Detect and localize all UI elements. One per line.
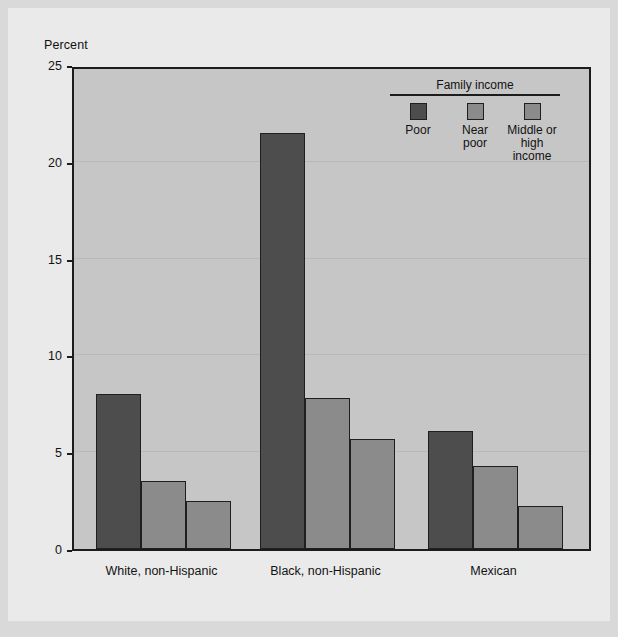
y-axis-tick-label: 10: [22, 349, 62, 363]
bar: [518, 506, 563, 549]
bar: [428, 431, 473, 549]
x-axis-group-label: Mexican: [394, 564, 594, 578]
legend-items: PoorNear poorMiddle or high income: [390, 103, 560, 163]
bar: [260, 133, 305, 549]
legend-swatch: [467, 103, 484, 120]
legend-item: Poor: [390, 103, 446, 137]
bar: [305, 398, 350, 549]
bar: [141, 481, 186, 549]
y-axis-tick-label: 20: [22, 156, 62, 170]
gridline: [74, 258, 589, 259]
legend-label: Near poor: [462, 124, 488, 150]
y-axis-title: Percent: [44, 38, 88, 52]
legend-divider: [390, 94, 560, 96]
y-axis-tick-label: 25: [22, 59, 62, 73]
y-axis-tick-label: 5: [22, 446, 62, 460]
legend-swatch: [410, 103, 427, 120]
legend-label: Poor: [405, 124, 430, 137]
legend-item: Near poor: [447, 103, 503, 150]
legend-swatch: [524, 103, 541, 120]
y-axis-tick-label: 0: [22, 543, 62, 557]
y-axis-tick-label: 15: [22, 253, 62, 267]
chart-page: Percent 0510152025 White, non-HispanicBl…: [0, 0, 618, 637]
gridline: [74, 354, 589, 355]
legend: Family income PoorNear poorMiddle or hig…: [390, 78, 560, 163]
bar: [350, 439, 395, 549]
legend-item: Middle or high income: [504, 103, 560, 163]
legend-title: Family income: [390, 78, 560, 92]
bar: [473, 466, 518, 549]
chart-card: Percent 0510152025 White, non-HispanicBl…: [8, 8, 610, 621]
bar: [186, 501, 231, 549]
bar: [96, 394, 141, 549]
legend-label: Middle or high income: [504, 124, 560, 163]
